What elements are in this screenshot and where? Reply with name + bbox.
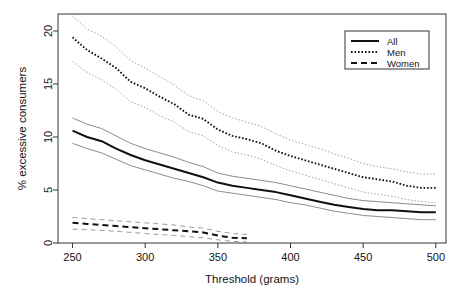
curve-women: [73, 223, 247, 238]
curve-women-lower-ci: [73, 229, 247, 242]
x-tick-label: 400: [281, 251, 299, 263]
chart-figure: 25030035040045050005101520Threshold (gra…: [0, 0, 473, 297]
y-axis-label: % excessive consumers: [16, 67, 28, 191]
curve-men-lower-ci: [73, 62, 436, 203]
x-tick-label: 250: [63, 251, 81, 263]
curve-all: [73, 131, 436, 213]
curve-all-upper-ci: [73, 118, 436, 206]
x-tick-label: 500: [427, 251, 445, 263]
y-tick-label: 0: [42, 240, 54, 246]
curve-women-upper-ci: [73, 218, 247, 235]
x-tick-label: 450: [354, 251, 372, 263]
x-axis-label: Threshold (grams): [205, 273, 299, 285]
y-tick-label: 15: [42, 78, 54, 90]
y-tick-label: 20: [42, 25, 54, 37]
x-tick-label: 300: [136, 251, 154, 263]
legend-label-women[interactable]: Women: [387, 58, 420, 69]
x-tick-label: 350: [209, 251, 227, 263]
chart-plot-area: 25030035040045050005101520Threshold (gra…: [0, 0, 473, 297]
chart-legend: AllMenWomen: [345, 31, 429, 69]
y-tick-label: 10: [42, 131, 54, 143]
curve-all-lower-ci: [73, 143, 436, 219]
legend-label-all[interactable]: All: [387, 36, 398, 47]
legend-label-men[interactable]: Men: [387, 47, 405, 58]
y-tick-label: 5: [42, 187, 54, 193]
